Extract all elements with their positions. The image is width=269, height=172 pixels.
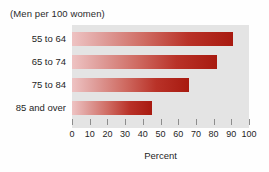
bar bbox=[72, 55, 217, 69]
plot-area: 55 to 6465 to 7475 to 8485 and over bbox=[72, 25, 249, 128]
category-label: 65 to 74 bbox=[32, 55, 66, 69]
x-axis-tick bbox=[143, 119, 144, 125]
chart-figure: (Men per 100 women) 55 to 6465 to 7475 t… bbox=[0, 0, 269, 172]
bar-row: 65 to 74 bbox=[72, 55, 249, 69]
x-axis-tick-label: 90 bbox=[226, 129, 236, 139]
x-axis-tick bbox=[72, 119, 73, 125]
x-axis-tick bbox=[196, 119, 197, 125]
chart-title: (Men per 100 women) bbox=[10, 8, 105, 19]
bar-row: 85 and over bbox=[72, 101, 249, 115]
x-axis-tick-label: 40 bbox=[138, 129, 148, 139]
x-axis-tick-label: 60 bbox=[173, 129, 183, 139]
x-axis-tick-label: 10 bbox=[85, 129, 95, 139]
x-axis-tick-label: 80 bbox=[209, 129, 219, 139]
x-axis-tick-label: 30 bbox=[120, 129, 130, 139]
x-axis-tick bbox=[161, 119, 162, 125]
bar bbox=[72, 101, 152, 115]
x-axis-tick-labels: 0102030405060708090100 bbox=[72, 129, 249, 141]
category-label: 55 to 64 bbox=[32, 32, 66, 46]
x-axis-tick-label: 0 bbox=[69, 129, 74, 139]
x-axis-tick bbox=[249, 119, 250, 125]
category-label: 85 and over bbox=[16, 101, 66, 115]
x-axis-tick bbox=[125, 119, 126, 125]
x-axis-title: Percent bbox=[72, 150, 249, 161]
x-axis-tick bbox=[107, 119, 108, 125]
x-axis-tick-label: 20 bbox=[102, 129, 112, 139]
bar-row: 55 to 64 bbox=[72, 32, 249, 46]
bar bbox=[72, 32, 233, 46]
category-label: 75 to 84 bbox=[32, 78, 66, 92]
x-axis-tick-marks bbox=[72, 119, 249, 128]
x-axis-tick-label: 50 bbox=[155, 129, 165, 139]
x-axis-tick bbox=[90, 119, 91, 125]
x-axis-tick-label: 70 bbox=[191, 129, 201, 139]
x-axis-tick bbox=[231, 119, 232, 125]
x-axis-tick-label: 100 bbox=[241, 129, 256, 139]
x-axis-tick bbox=[214, 119, 215, 125]
bar-row: 75 to 84 bbox=[72, 78, 249, 92]
bar bbox=[72, 78, 189, 92]
x-axis-tick bbox=[178, 119, 179, 125]
